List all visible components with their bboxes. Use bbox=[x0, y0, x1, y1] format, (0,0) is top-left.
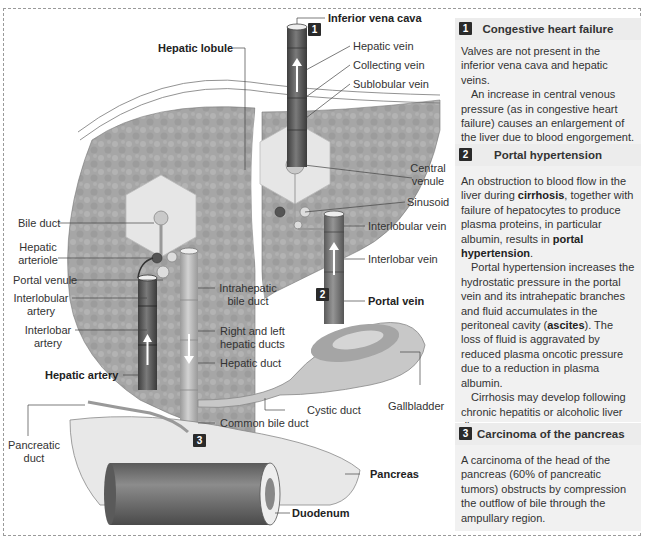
panel-2-paragraph: An obstruction to blood flow in the live… bbox=[461, 174, 635, 260]
panel-portal-hypertension: 2 Portal hypertension An obstruction to … bbox=[455, 144, 641, 422]
panel-2-paragraph: Portal hypertension increases the hydros… bbox=[461, 260, 635, 390]
panel-3-header: 3 Carcinoma of the pancreas bbox=[455, 423, 641, 445]
label-collecting-vein: Collecting vein bbox=[353, 59, 425, 72]
panel-1-title: Congestive heart failure bbox=[455, 22, 641, 36]
label-hepatic-arteriole: Hepaticarteriole bbox=[16, 241, 60, 267]
label-bile-duct: Bile duct bbox=[18, 217, 60, 230]
panel-1-paragraph: An increase in central venous pressure (… bbox=[461, 87, 635, 145]
label-pancreatic-duct: Pancreaticduct bbox=[8, 439, 60, 465]
panel-3-badge: 3 bbox=[459, 427, 472, 440]
panel-3-body: A carcinoma of the head of the pancreas … bbox=[455, 445, 641, 531]
label-hepatic-lobule: Hepatic lobule bbox=[158, 42, 233, 55]
label-right-left-hepatic-ducts: Right and lefthepatic ducts bbox=[220, 325, 285, 351]
badge-2: 2 bbox=[316, 288, 329, 301]
label-hepatic-vein: Hepatic vein bbox=[353, 40, 414, 53]
label-hepatic-artery: Hepatic artery bbox=[45, 369, 118, 382]
label-pancreas: Pancreas bbox=[370, 468, 419, 481]
panel-1-body: Valves are not present in the inferior v… bbox=[455, 40, 641, 148]
label-sinusoid: Sinusoid bbox=[407, 196, 449, 209]
label-interlobar-artery: Interlobarartery bbox=[22, 324, 74, 350]
label-cystic-duct: Cystic duct bbox=[307, 404, 361, 417]
badge-3: 3 bbox=[193, 434, 206, 447]
label-sublobular-vein: Sublobular vein bbox=[353, 78, 429, 91]
label-portal-vein: Portal vein bbox=[368, 295, 424, 308]
label-central-venule: Centralvenule bbox=[408, 162, 448, 188]
panel-2-title: Portal hypertension bbox=[455, 148, 641, 162]
label-gallbladder: Gallbladder bbox=[388, 400, 444, 413]
badge-1: 1 bbox=[308, 23, 321, 36]
label-common-bile-duct: Common bile duct bbox=[220, 417, 309, 430]
panel-2-body: An obstruction to blood flow in the live… bbox=[455, 166, 641, 422]
panel-carcinoma-pancreas: 3 Carcinoma of the pancreas A carcinoma … bbox=[455, 423, 641, 531]
label-inferior-vena-cava: Inferior vena cava bbox=[328, 12, 422, 25]
panel-3-title: Carcinoma of the pancreas bbox=[477, 427, 641, 441]
panel-3-paragraph: A carcinoma of the head of the pancreas … bbox=[461, 453, 635, 525]
duodenum bbox=[110, 463, 270, 525]
panel-1-header: 1 Congestive heart failure bbox=[455, 18, 641, 40]
label-hepatic-duct: Hepatic duct bbox=[220, 357, 281, 370]
panel-congestive-heart-failure: 1 Congestive heart failure Valves are no… bbox=[455, 18, 641, 148]
label-interlobar-vein: Interlobar vein bbox=[368, 253, 438, 266]
label-intrahepatic-bile-duct: Intrahepaticbile duct bbox=[218, 282, 278, 308]
panel-1-paragraph: Valves are not present in the inferior v… bbox=[461, 44, 635, 87]
label-interlobular-vein: Interlobular vein bbox=[368, 220, 446, 233]
panel-2-header: 2 Portal hypertension bbox=[455, 144, 641, 166]
label-duodenum: Duodenum bbox=[292, 507, 349, 520]
label-portal-venule: Portal venule bbox=[13, 274, 77, 287]
label-interlobular-artery: Interlobularartery bbox=[12, 292, 70, 318]
